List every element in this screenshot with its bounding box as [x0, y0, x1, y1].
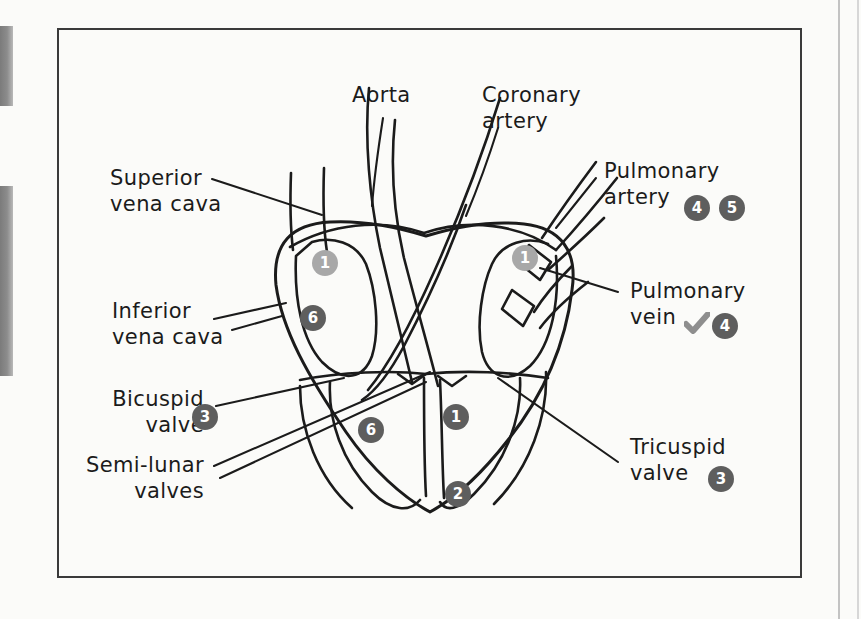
label-semi-lunar-valves: Semi-lunar valves	[60, 452, 204, 504]
badge-bicuspid-valve: 3	[192, 404, 218, 430]
badge-pulmonary-artery-5: 5	[719, 195, 745, 221]
label-pulmonary-artery-line1: Pulmonary	[604, 158, 720, 184]
badge-pulmonary-artery-4: 4	[684, 195, 710, 221]
label-semi-lunar-valves-line1: Semi-lunar	[60, 452, 204, 478]
badge-tricuspid-valve: 3	[708, 466, 734, 492]
label-coronary-artery-line2: artery	[482, 108, 581, 134]
diagram-badge-right-atrium-top: 1	[512, 245, 538, 271]
label-superior-vena-cava: Superior vena cava	[110, 165, 222, 217]
label-bicuspid-valve-line2: valve	[76, 412, 204, 438]
label-bicuspid-valve: Bicuspid valve	[76, 386, 204, 438]
check-mark-icon	[684, 312, 710, 334]
label-inferior-vena-cava: Inferior vena cava	[112, 298, 224, 350]
diagram-badge-right-ventricle: 1	[443, 404, 469, 430]
label-superior-vena-cava-line2: vena cava	[110, 191, 222, 217]
diagram-badge-left-atrium-top: 1	[312, 250, 338, 276]
label-inferior-vena-cava-line1: Inferior	[112, 298, 224, 324]
label-bicuspid-valve-line1: Bicuspid	[76, 386, 204, 412]
label-coronary-artery: Coronary artery	[482, 82, 581, 134]
label-tricuspid-valve-line1: Tricuspid	[630, 434, 726, 460]
label-aorta-line1: Aorta	[352, 82, 411, 108]
diagram-badge-left-ventricle: 6	[358, 417, 384, 443]
diagram-badge-apex: 2	[445, 481, 471, 507]
label-semi-lunar-valves-line2: valves	[60, 478, 204, 504]
label-superior-vena-cava-line1: Superior	[110, 165, 222, 191]
diagram-badge-left-atrium-lower: 6	[300, 305, 326, 331]
label-coronary-artery-line1: Coronary	[482, 82, 581, 108]
label-aorta: Aorta	[352, 82, 411, 108]
label-pulmonary-vein-line1: Pulmonary	[630, 278, 746, 304]
label-inferior-vena-cava-line2: vena cava	[112, 324, 224, 350]
badge-pulmonary-vein-4: 4	[712, 313, 738, 339]
diagram-page: Aorta Coronary artery Superior vena cava…	[0, 0, 861, 619]
